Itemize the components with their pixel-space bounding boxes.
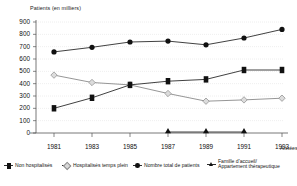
legend-label: Nombre total de patients [144,163,200,169]
legend-item-hospitalises-temps-plein[interactable]: Hospitalisés temps plein [62,162,128,169]
y-tick-label: 700 [6,44,30,50]
series-famille-accueil-appartement-therapeutique [165,128,247,133]
y-tick-label: 0 [6,130,30,136]
y-tick-label: 300 [6,93,30,99]
series-nombre-total-de-patients [51,27,284,55]
x-tick-label: 1983 [77,143,107,150]
y-tick-label: 200 [6,105,30,111]
y-tick-label: 500 [6,68,30,74]
y-tick-label: 100 [6,118,30,124]
x-tick-marks [54,133,282,137]
legend-item-famille-accueil-appartement-therapeutique[interactable]: Famille d'accueil/ Appartement thérapeut… [207,159,280,170]
legend-label: Non hospitalisés [15,163,52,169]
y-tick-marks [33,22,36,133]
y-tick-label: 400 [6,81,30,87]
legend-item-non-hospitalises[interactable]: Non hospitalisés [4,162,52,169]
chart-legend: Non hospitalisés Hospitalisés temps plei… [0,157,297,175]
y-tick-label: 600 [6,56,30,62]
x-tick-label: 1989 [191,143,221,150]
x-tick-label: 1991 [229,143,259,150]
y-tick-label: 800 [6,31,30,37]
x-tick-label: 1981 [39,143,69,150]
caption-strip [0,176,297,186]
x-tick-label: 1987 [153,143,183,150]
legend-label-line2: Appartement thérapeutique [218,164,280,170]
x-tick-label: 1985 [115,143,145,150]
x-axis-label: Années [280,145,297,151]
filled-circle-icon [133,162,142,169]
legend-item-nombre-total-de-patients[interactable]: Nombre total de patients [133,162,200,169]
chart-figure: Patients (en milliers) [0,0,297,186]
y-tick-label: 900 [6,19,30,25]
open-diamond-icon [62,162,71,169]
series-non-hospitalises [52,67,285,112]
filled-triangle-icon [207,159,216,169]
legend-label: Hospitalisés temps plein [73,163,128,169]
filled-square-icon [4,162,13,169]
